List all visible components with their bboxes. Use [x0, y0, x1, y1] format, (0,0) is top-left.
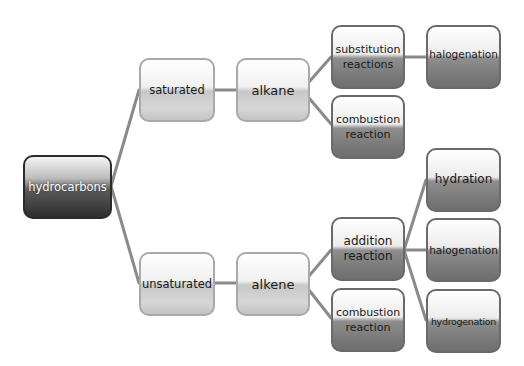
- node-label: unsaturated: [142, 277, 212, 292]
- node-halogenation-top: halogenation: [426, 25, 501, 89]
- node-label: alkane: [251, 83, 294, 98]
- node-label: halogenation: [429, 243, 498, 258]
- node-hydrogenation: hydrogenation: [426, 289, 501, 353]
- node-label: hydrocarbons: [28, 180, 107, 195]
- link-alkene-addition: [309, 250, 331, 276]
- node-label: alkene: [252, 277, 295, 292]
- link-addition-hydrogenation: [404, 250, 426, 320]
- node-hydration: hydration: [426, 148, 501, 212]
- node-label: addition reaction: [335, 234, 401, 264]
- node-label: halogenation: [429, 47, 498, 62]
- node-addition-reaction: addition reaction: [331, 217, 405, 281]
- node-combustion-reaction-bottom: combustion reaction: [331, 288, 405, 352]
- node-label: combustion reaction: [335, 112, 401, 142]
- node-label: combustion reaction: [335, 305, 401, 335]
- node-unsaturated: unsaturated: [139, 252, 215, 316]
- node-combustion-reaction-top: combustion reaction: [331, 95, 405, 159]
- node-substitution-reactions: substitution reactions: [331, 25, 405, 89]
- node-hydrocarbons: hydrocarbons: [23, 155, 112, 219]
- link-alkene-combustion: [309, 290, 331, 318]
- node-halogenation-mid: halogenation: [426, 218, 501, 282]
- node-label: hydration: [435, 172, 493, 187]
- node-alkane: alkane: [236, 58, 310, 122]
- node-label: hydrogenation: [431, 314, 496, 329]
- node-label: substitution reactions: [335, 42, 401, 72]
- link-hydrocarbons-unsaturated: [111, 186, 139, 283]
- link-addition-hydration: [404, 180, 426, 250]
- node-alkene: alkene: [236, 252, 310, 316]
- link-alkane-combustion: [309, 98, 331, 124]
- link-hydrocarbons-saturated: [111, 90, 139, 186]
- node-label: saturated: [149, 83, 205, 98]
- node-saturated: saturated: [139, 58, 215, 122]
- link-alkane-substitution: [309, 57, 331, 82]
